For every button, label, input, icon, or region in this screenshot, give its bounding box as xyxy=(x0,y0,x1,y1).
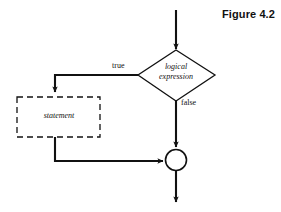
decision-node-label: logical expression xyxy=(146,62,206,82)
decision-label-line-2: expression xyxy=(159,72,193,81)
merge-circle xyxy=(166,150,187,171)
figure-title: Figure 4.2 xyxy=(222,8,275,20)
flowchart-graphic xyxy=(0,0,281,212)
edge-label-true: true xyxy=(112,61,124,70)
figure-canvas: Figure 4.2 logical expression statement … xyxy=(0,0,281,212)
statement-node-label: statement xyxy=(18,111,100,121)
true-branch-arrow xyxy=(55,75,138,92)
decision-label-line-1: logical xyxy=(165,62,187,71)
loop-back-arrow xyxy=(55,137,163,161)
edge-label-false: false xyxy=(181,98,196,107)
